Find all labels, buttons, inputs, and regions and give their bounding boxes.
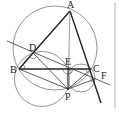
point-e-dot [67,68,69,70]
simson-line-diagram: A B C D E F P [0,0,119,117]
point-p-dot [67,88,69,90]
segment-dp [33,53,68,89]
label-e: E [65,56,71,67]
label-b: B [10,64,17,75]
circumcircle [13,6,97,90]
label-a: A [67,0,75,10]
circle-bdep [15,52,70,107]
label-f: F [101,70,107,81]
label-d: D [29,42,36,53]
label-c: C [93,63,100,74]
label-p: P [65,91,71,102]
